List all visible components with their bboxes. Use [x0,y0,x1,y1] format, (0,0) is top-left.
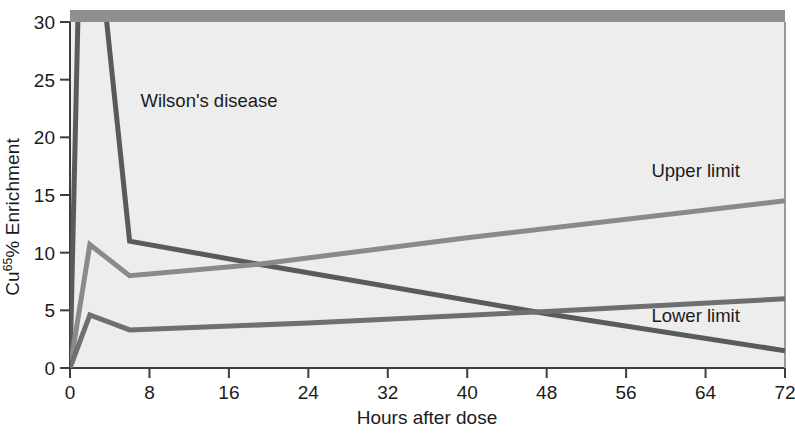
x-tick-label: 56 [616,382,637,403]
x-tick-label: 0 [65,382,76,403]
y-axis-ticks: 051015202530 [34,12,70,379]
y-tick-label: 5 [44,300,55,321]
series-label: Lower limit [651,305,739,326]
line-chart: 051015202530 081624324048566472 Wilson's… [0,0,795,434]
y-tick-label: 0 [44,358,55,379]
y-tick-label: 10 [34,243,55,264]
x-tick-label: 32 [377,382,398,403]
x-axis-ticks: 081624324048566472 [65,368,795,403]
x-tick-label: 40 [457,382,478,403]
y-tick-label: 30 [34,12,55,33]
x-axis-title: Hours after dose [357,407,497,428]
x-tick-label: 48 [536,382,557,403]
plot-top-band [70,10,785,22]
x-tick-label: 72 [774,382,795,403]
x-tick-label: 24 [298,382,320,403]
x-tick-label: 16 [218,382,239,403]
x-tick-label: 8 [144,382,155,403]
y-tick-label: 15 [34,185,55,206]
y-tick-label: 25 [34,70,55,91]
series-label: Upper limit [651,160,739,181]
x-tick-label: 64 [695,382,717,403]
chart-figure: Cu65% Enrichment 051015202530 0816243240… [0,0,795,434]
series-label: Wilson's disease [140,90,277,111]
y-tick-label: 20 [34,127,55,148]
